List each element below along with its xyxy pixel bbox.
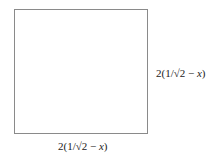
label-suffix: ) [202,67,206,79]
label-prefix: 2(1/√2 − [156,67,197,79]
right-side-length-label: 2(1/√2 − x) [156,67,206,79]
label-prefix: 2(1/√2 − [58,140,99,152]
bottom-side-length-label: 2(1/√2 − x) [58,140,108,152]
label-suffix: ) [104,140,108,152]
square-shape [14,9,148,134]
